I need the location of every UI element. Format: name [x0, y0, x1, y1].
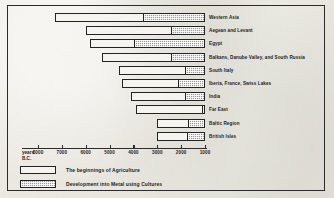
x-axis-tick-label: 1000 — [193, 150, 217, 155]
x-axis-tick — [62, 145, 63, 148]
x-axis-tick — [205, 145, 206, 148]
category-label: Egypt — [209, 39, 222, 48]
x-axis-tick — [86, 145, 87, 148]
bar-row — [8, 13, 324, 22]
legend-label-agriculture: The beginnings of Agriculture — [66, 166, 140, 174]
bar-segment-agriculture — [132, 93, 185, 100]
stacked-bar — [86, 26, 205, 35]
legend-swatch-agriculture — [20, 166, 56, 174]
bar-segment-agriculture — [103, 54, 171, 61]
category-label: Balkans, Danube Valley, and South Russia — [209, 53, 305, 62]
bar-row — [8, 132, 324, 141]
x-axis-tick-label: 7000 — [50, 150, 74, 155]
bar-segment-agriculture — [158, 120, 188, 127]
bar-segment-metal — [178, 80, 204, 87]
category-label: Aegean and Levant — [209, 26, 253, 35]
stacked-bar — [119, 66, 205, 75]
bar-segment-agriculture — [137, 106, 202, 113]
stacked-bar — [102, 53, 205, 62]
bar-segment-agriculture — [120, 67, 185, 74]
x-axis-tick — [110, 145, 111, 148]
x-axis-tick-label: 5000 — [98, 150, 122, 155]
x-axis-tick — [181, 145, 182, 148]
bar-segment-metal — [171, 54, 204, 61]
bar-row — [8, 79, 324, 88]
bar-segment-metal — [185, 93, 204, 100]
x-axis-line — [22, 148, 207, 149]
bar-segment-agriculture — [91, 40, 133, 47]
bar-segment-metal — [187, 133, 204, 140]
x-axis-title-line1: years — [22, 150, 34, 155]
bar-segment-metal — [188, 120, 204, 127]
bar-segment-metal — [202, 106, 204, 113]
stacked-bar — [122, 79, 206, 88]
bar-row — [8, 92, 324, 101]
stacked-bar — [136, 105, 205, 114]
x-axis-tick-label: 2000 — [169, 150, 193, 155]
x-axis-tick — [38, 145, 39, 148]
bar-segment-metal — [171, 27, 204, 34]
legend-swatch-metal — [20, 180, 56, 188]
stacked-bar — [90, 39, 205, 48]
stacked-bar — [157, 119, 205, 128]
category-label: British Isles — [209, 132, 236, 141]
category-label: Far East — [209, 105, 228, 114]
stacked-bar — [157, 132, 205, 141]
x-axis-title-line2: B.C. — [22, 156, 31, 161]
bar-segment-agriculture — [87, 27, 171, 34]
bar-row — [8, 105, 324, 114]
bar-row — [8, 119, 324, 128]
stacked-bar — [55, 13, 205, 22]
bar-row — [8, 66, 324, 75]
x-axis-tick-label: 3000 — [145, 150, 169, 155]
bar-segment-metal — [143, 14, 204, 21]
category-label: Western Asia — [209, 13, 239, 22]
legend-label-metal: Development into Metal using Cultures — [66, 180, 162, 188]
bar-row — [8, 26, 324, 35]
x-axis-tick-label: 6000 — [74, 150, 98, 155]
x-axis-tick-label: 4000 — [121, 150, 145, 155]
chart-plot-area: Western AsiaAegean and LevantEgyptBalkan… — [8, 6, 324, 191]
bar-segment-metal — [134, 40, 204, 47]
category-label: Iberia, France, Swiss Lakes — [209, 79, 271, 88]
bar-row — [8, 39, 324, 48]
stacked-bar — [131, 92, 205, 101]
category-label: India — [209, 92, 220, 101]
bar-segment-metal — [185, 67, 204, 74]
category-label: Baltic Region — [209, 119, 240, 128]
category-label: South Italy — [209, 66, 234, 75]
x-axis-tick — [157, 145, 158, 148]
bar-segment-agriculture — [56, 14, 143, 21]
bar-segment-agriculture — [123, 80, 179, 87]
bar-segment-agriculture — [158, 133, 187, 140]
x-axis-tick — [133, 145, 134, 148]
